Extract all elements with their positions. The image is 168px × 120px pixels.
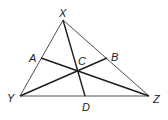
triangle-diagram: X Y Z A B C D xyxy=(0,0,168,120)
label-c: C xyxy=(78,55,86,67)
label-a: A xyxy=(28,52,36,64)
label-z: Z xyxy=(152,93,161,105)
label-d: D xyxy=(82,101,90,113)
label-x: X xyxy=(58,7,67,19)
label-b: B xyxy=(111,51,118,63)
label-y: Y xyxy=(7,92,15,104)
diagram-svg: X Y Z A B C D xyxy=(0,0,168,120)
